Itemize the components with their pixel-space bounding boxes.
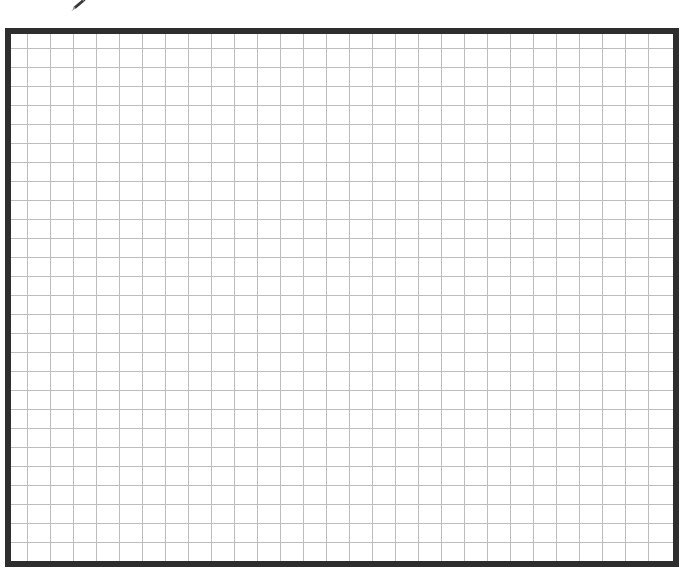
pencil-icon — [70, 0, 86, 12]
drawing-canvas[interactable]: Graph paper grid — [0, 0, 682, 577]
canvas-label: Graph paper grid — [0, 0, 1, 1]
graph-paper-grid[interactable] — [5, 28, 679, 567]
